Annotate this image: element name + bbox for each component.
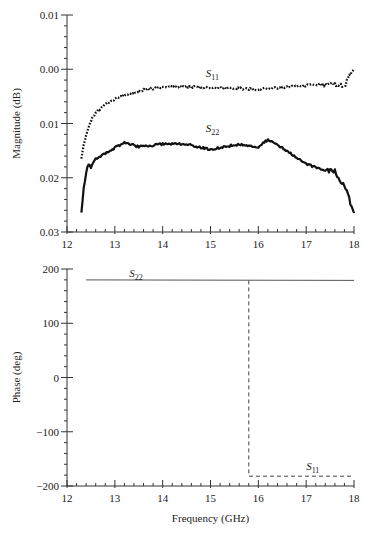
x-tick-label: 14 xyxy=(157,492,169,504)
x-tick-label: 13 xyxy=(109,238,121,250)
x-tick-label: 16 xyxy=(253,492,265,504)
x-tick-label: 13 xyxy=(109,492,121,504)
y-tick-label: 0.00 xyxy=(40,63,60,75)
x-tick-label: 17 xyxy=(301,238,313,250)
y-tick-label: 0.01 xyxy=(40,9,59,21)
series-s11-line xyxy=(249,280,354,476)
x-tick-label: 12 xyxy=(62,492,73,504)
y-axis-label: Phase (deg) xyxy=(10,351,23,403)
x-tick-label: 18 xyxy=(349,238,361,250)
y-tick-label: 200 xyxy=(43,263,60,275)
x-tick-label: 12 xyxy=(62,238,73,250)
series-s11-line xyxy=(81,69,354,158)
panel-bottom: 2001000−100−20012131415161718Phase (deg)… xyxy=(10,263,360,525)
x-tick-label: 17 xyxy=(301,492,313,504)
y-tick-label: −200 xyxy=(36,480,59,492)
y-tick-label: 100 xyxy=(43,317,60,329)
y-tick-label: 0.02 xyxy=(40,172,59,184)
y-tick-label: −100 xyxy=(36,426,59,438)
series-label-s11: S11 xyxy=(306,460,319,475)
plot-canvas: 0.010.000.010.020.0312131415161718Magnit… xyxy=(0,0,367,536)
series-label-s22: S22 xyxy=(206,122,220,137)
series-label-s22: S22 xyxy=(129,267,143,282)
x-tick-label: 18 xyxy=(349,492,361,504)
x-axis-label: Frequency (GHz) xyxy=(172,512,250,525)
series-s22-line xyxy=(81,139,354,213)
x-tick-label: 16 xyxy=(253,238,265,250)
y-axis-label: Magnitude (dB) xyxy=(10,88,23,159)
chart-figure: 0.010.000.010.020.0312131415161718Magnit… xyxy=(0,0,367,536)
x-tick-label: 15 xyxy=(205,492,217,504)
x-tick-label: 14 xyxy=(157,238,169,250)
panel-top: 0.010.000.010.020.0312131415161718Magnit… xyxy=(10,9,360,250)
y-tick-label: 0.01 xyxy=(40,118,59,130)
y-tick-label: 0.03 xyxy=(40,226,60,238)
y-tick-label: 0 xyxy=(54,372,60,384)
series-label-s11: S11 xyxy=(206,67,219,82)
series-s22-line xyxy=(86,280,354,281)
x-tick-label: 15 xyxy=(205,238,217,250)
